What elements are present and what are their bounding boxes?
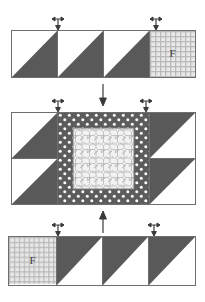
half-square-triangle-lower-right-icon bbox=[104, 31, 149, 77]
half-square-triangle-lower-right-icon bbox=[12, 31, 57, 77]
seam-marker-arrow-middle-right bbox=[136, 97, 156, 113]
half-square-triangle-upper-left-icon bbox=[149, 237, 195, 285]
table-row[interactable] bbox=[57, 237, 103, 285]
dot-fabric-border-icon bbox=[58, 113, 149, 204]
center-block[interactable] bbox=[58, 113, 149, 204]
corner-square-letter: F bbox=[150, 48, 195, 59]
half-square-triangle-lower-right-icon bbox=[12, 113, 57, 158]
table-row[interactable] bbox=[103, 237, 149, 285]
seam-marker-arrow-bottom-right bbox=[144, 221, 164, 237]
table-row[interactable] bbox=[104, 31, 150, 77]
seam-marker-arrow-top-right bbox=[146, 15, 166, 31]
corner-square-unit-bottom-left[interactable]: F bbox=[9, 237, 57, 285]
half-square-triangle-upper-left-icon bbox=[150, 113, 195, 158]
seam-marker-arrow-middle-left bbox=[48, 97, 68, 113]
bottom-row[interactable]: F bbox=[8, 236, 196, 286]
table-row[interactable] bbox=[149, 113, 195, 159]
seam-marker-arrow-top-left bbox=[48, 15, 68, 31]
half-square-triangle-upper-left-icon bbox=[103, 237, 148, 285]
half-square-triangle-upper-left-icon bbox=[150, 159, 195, 204]
table-row[interactable] bbox=[149, 159, 195, 204]
half-square-triangle-lower-right-icon bbox=[12, 159, 57, 204]
corner-square-letter: F bbox=[9, 255, 56, 266]
top-row[interactable]: F bbox=[11, 30, 196, 78]
assembly-arrow-top-to-middle bbox=[96, 84, 110, 108]
table-row[interactable] bbox=[12, 113, 58, 159]
corner-square-unit-top-right[interactable]: F bbox=[150, 31, 195, 77]
table-row[interactable] bbox=[58, 31, 104, 77]
half-square-triangle-lower-right-icon bbox=[58, 31, 103, 77]
seam-marker-arrow-bottom-left bbox=[48, 221, 68, 237]
middle-row[interactable] bbox=[11, 112, 196, 205]
table-row[interactable] bbox=[12, 159, 58, 204]
table-row[interactable] bbox=[12, 31, 58, 77]
quilt-assembly-diagram: F bbox=[0, 0, 205, 302]
half-square-triangle-upper-left-icon bbox=[57, 237, 102, 285]
table-row[interactable] bbox=[149, 237, 195, 285]
assembly-arrow-bottom-to-middle bbox=[96, 209, 110, 233]
